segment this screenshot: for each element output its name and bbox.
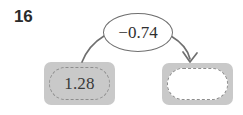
- operation-label: −0.74: [118, 24, 157, 41]
- curve-from-start-icon: [82, 36, 104, 62]
- arrow-to-result-icon: [171, 36, 190, 59]
- exercise-container: 16 1.28 −0.74: [0, 0, 243, 115]
- operation-bubble: −0.74: [103, 13, 173, 52]
